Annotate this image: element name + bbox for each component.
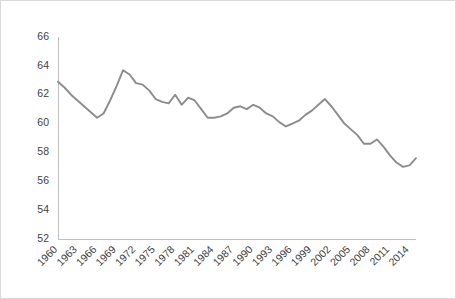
y-axis-tick-label: 56	[37, 174, 49, 186]
y-axis-tick-label: 54	[37, 203, 49, 215]
x-axis-tick-label: 1996	[269, 243, 294, 268]
x-axis-tick-label: 1975	[132, 243, 157, 268]
x-axis-tick-label: 1969	[93, 243, 118, 268]
line-chart: 6664626058565452196019631966196919721975…	[1, 1, 456, 299]
y-axis-tick-label: 52	[37, 232, 49, 244]
chart-figure: 6664626058565452196019631966196919721975…	[0, 0, 456, 299]
x-axis-tick-label: 2011	[367, 243, 392, 268]
x-axis-tick-label: 1981	[171, 243, 196, 268]
x-axis-tick-label: 1987	[210, 243, 235, 268]
y-axis-tick-label: 66	[37, 30, 49, 42]
x-axis-tick-label: 1966	[73, 243, 98, 268]
x-axis-tick-label: 1990	[230, 243, 255, 268]
x-axis-tick-label: 1993	[249, 243, 274, 268]
x-axis-tick-label: 1984	[191, 243, 216, 268]
x-axis-tick-label: 1978	[152, 243, 177, 268]
y-axis-tick-label: 60	[37, 116, 49, 128]
x-axis-tick-label: 2005	[327, 243, 352, 268]
y-axis-tick-label: 58	[37, 145, 49, 157]
x-axis-tick-label: 2014	[386, 243, 411, 268]
x-axis-tick-label: 1972	[113, 243, 138, 268]
x-axis-tick-label: 2002	[308, 243, 333, 268]
x-axis-tick-label: 1963	[54, 243, 79, 268]
y-axis-tick-label: 64	[37, 59, 49, 71]
data-series-line	[58, 70, 416, 167]
x-axis-tick-label: 1960	[34, 243, 59, 268]
y-axis-tick-label: 62	[37, 87, 49, 99]
x-axis-tick-label: 2008	[347, 243, 372, 268]
x-axis-tick-label: 1999	[288, 243, 313, 268]
